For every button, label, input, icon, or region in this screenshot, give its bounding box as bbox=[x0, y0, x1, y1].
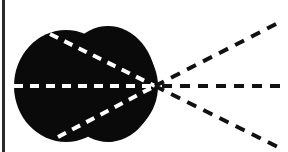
ray-diagram bbox=[0, 0, 288, 152]
upper-outer-ray bbox=[155, 22, 280, 86]
lower-outer-ray bbox=[155, 86, 280, 148]
outer-rays bbox=[155, 22, 288, 148]
